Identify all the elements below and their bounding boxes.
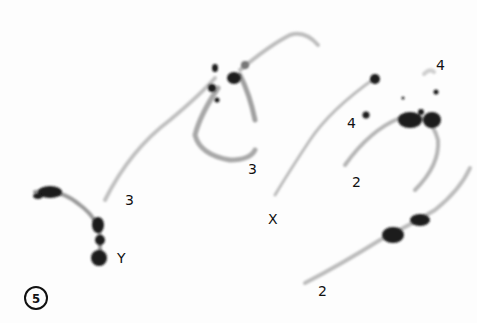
label-4-left: 4 [347,116,356,130]
label-3-left: 3 [125,193,134,207]
label-4-top: 4 [436,58,445,72]
label-2-lower: 2 [318,284,327,298]
label-y: Y [117,251,126,265]
chromosome-drawing [0,0,477,323]
label-3-right: 3 [248,162,257,176]
panel-number-badge: 5 [24,286,48,310]
chromosome-micrograph: 3 3 Y X 4 4 2 2 5 [0,0,477,323]
label-x: X [268,212,278,226]
label-2-upper: 2 [352,175,361,189]
